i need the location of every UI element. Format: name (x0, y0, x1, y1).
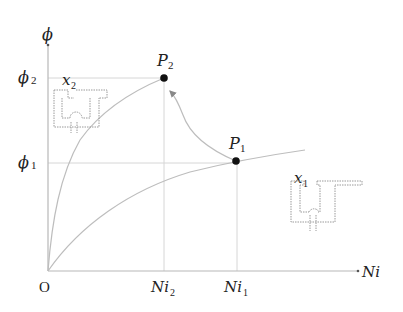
svg-text:Ni: Ni (150, 278, 169, 296)
transition-path (170, 91, 236, 161)
svg-text:2: 2 (168, 59, 174, 71)
origin-label: O (39, 279, 50, 295)
svg-text:2: 2 (170, 287, 175, 298)
svg-text:P: P (228, 134, 240, 153)
svg-text:ϕ: ϕ (18, 68, 29, 87)
curve-x2 (48, 78, 164, 271)
svg-text:ϕ: ϕ (18, 153, 29, 172)
point-p1-label: P 1 (228, 134, 246, 154)
y-axis-arrow-icon (47, 44, 50, 47)
phi-ni-diagram: ϕ Ni O ϕ 2 ϕ 1 Ni 2 Ni 1 P 2 P 1 x 2 (0, 0, 403, 312)
ni1-tick-label: Ni 1 (223, 278, 248, 298)
point-p1-marker (232, 157, 240, 165)
svg-text:1: 1 (243, 287, 248, 298)
schematic-x2-label: x 2 (62, 71, 76, 91)
svg-text:P: P (156, 51, 168, 70)
svg-text:x: x (62, 71, 71, 89)
x-axis-arrow-icon (357, 270, 360, 273)
svg-text:1: 1 (240, 142, 246, 154)
ni2-tick-label: Ni 2 (150, 278, 175, 298)
x-axis-label: Ni (361, 263, 380, 281)
svg-text:1: 1 (31, 159, 37, 171)
phi1-tick-label: ϕ 1 (18, 153, 37, 172)
schematic-x2: x 2 (54, 71, 107, 133)
point-p2-label: P 2 (156, 51, 174, 71)
svg-text:2: 2 (71, 80, 76, 91)
point-p2-marker (160, 74, 168, 82)
curve-x1 (48, 150, 305, 271)
y-axis-label: ϕ (42, 25, 53, 44)
svg-text:x: x (294, 169, 303, 187)
schematic-x1-label: x 1 (294, 169, 308, 189)
svg-text:2: 2 (31, 74, 37, 86)
phi2-tick-label: ϕ 2 (18, 68, 37, 87)
svg-text:Ni: Ni (223, 278, 242, 296)
schematic-x1: x 1 (291, 169, 362, 231)
